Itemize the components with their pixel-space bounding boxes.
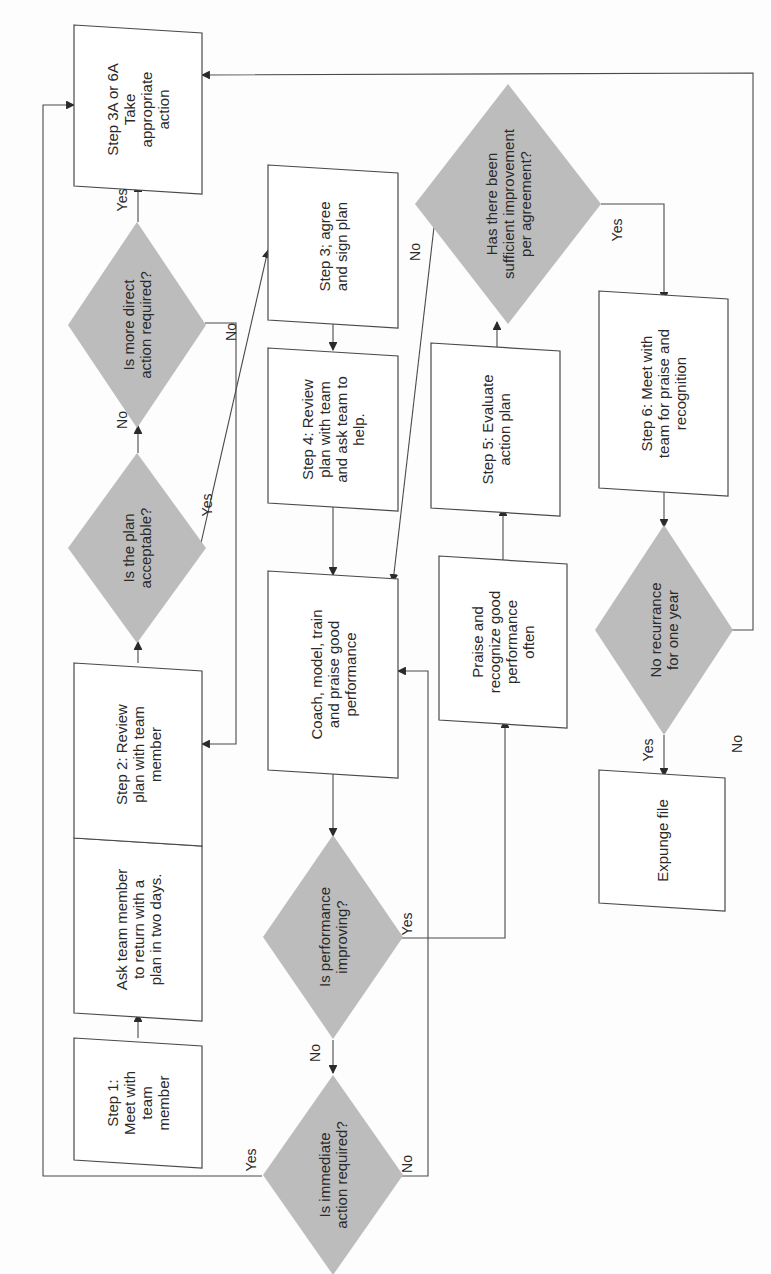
- node-text-line: Step 4: Review: [299, 379, 316, 480]
- node-step4: Step 4: Reviewplan with teamand ask team…: [268, 348, 398, 511]
- node-text-line: Expunge file: [654, 799, 671, 882]
- node-text-line: action required?: [137, 271, 154, 379]
- node-text-line: often: [520, 625, 537, 658]
- edge-label-yes: Yes: [609, 219, 625, 242]
- edge-label-no: No: [223, 323, 239, 341]
- node-expunge: Expunge file: [599, 770, 725, 911]
- node-text-line: Is the plan: [120, 513, 137, 582]
- node-text-line: plan in two days.: [147, 874, 164, 986]
- flowchart-diagram: Step 1:Meet withteammemberAsk team membe…: [0, 0, 771, 1274]
- node-text-line: plan with team: [316, 381, 333, 478]
- node-step5: Step 5: Evaluateaction plan: [431, 343, 560, 516]
- node-text-line: recognition: [672, 357, 689, 430]
- node-text-line: team for praise and: [655, 329, 672, 458]
- node-text-line: recognize good: [486, 591, 503, 694]
- ask-label: Ask team memberto return with aplan in t…: [113, 869, 164, 991]
- node-text-line: Step 5: Evaluate: [479, 374, 496, 484]
- node-text-line: Meet with: [121, 1071, 138, 1135]
- edge-label-yes: Yes: [399, 913, 415, 936]
- node-text-line: Ask team member: [113, 869, 130, 991]
- node-step1: Step 1:Meet withteammember: [74, 1038, 202, 1168]
- node-step2: Step 2: Reviewplan with teammember: [74, 663, 202, 846]
- node-text-line: action required?: [333, 1121, 350, 1229]
- node-text-line: to return with a: [130, 879, 147, 979]
- node-perf-improving: Is performanceimproving?: [263, 835, 403, 1039]
- edge-label-no: No: [399, 1155, 415, 1173]
- node-text-line: sufficient improvement: [500, 128, 517, 279]
- node-text-line: performance: [342, 632, 359, 716]
- node-immediate: Is immediateaction required?: [263, 1075, 403, 1274]
- node-text-line: plan with team: [130, 706, 147, 803]
- node-more-direct: Is more directaction required?: [68, 222, 206, 428]
- node-step3: Step 3; agreeand sign plan: [268, 165, 398, 328]
- node-text-line: Step 1:: [104, 1079, 121, 1127]
- node-text-line: Take: [121, 94, 138, 126]
- node-text-line: team: [138, 1086, 155, 1119]
- node-coach: Coach, model, trainand praise goodperfor…: [268, 571, 398, 778]
- node-text-line: No recurrance: [647, 582, 664, 677]
- edge-label-yes: Yes: [640, 739, 656, 762]
- no_recur-label: No recurrancefor one year: [647, 582, 681, 677]
- node-text-line: and ask team to: [333, 376, 350, 483]
- node-text-line: Step 2: Review: [113, 704, 130, 805]
- node-text-line: Praise and: [469, 606, 486, 678]
- node-text-line: action plan: [496, 393, 513, 466]
- node-ask: Ask team memberto return with aplan in t…: [74, 838, 202, 1021]
- node-text-line: Is performance: [316, 887, 333, 987]
- node-text-line: help.: [350, 413, 367, 446]
- immediate-label: Is immediateaction required?: [316, 1121, 350, 1229]
- arrow-sufficient-to-step6: [601, 204, 664, 300]
- node-step6: Step 6: Meet withteam for praise andreco…: [599, 291, 728, 496]
- nodes: Step 1:Meet withteammemberAsk team membe…: [68, 25, 733, 1274]
- flowchart-canvas: Step 1:Meet withteammemberAsk team membe…: [0, 0, 771, 1274]
- step3-label: Step 3; agreeand sign plan: [316, 201, 350, 291]
- node-text-line: improving?: [333, 900, 350, 973]
- edge-label-no: No: [729, 735, 745, 753]
- perf_improving-label: Is performanceimproving?: [316, 887, 350, 987]
- arrow-more-direct-to-step2: [202, 323, 236, 744]
- node-plan-ok: Is the planacceptable?: [68, 453, 206, 643]
- node-text-line: for one year: [664, 590, 681, 670]
- node-text-line: Is more direct: [120, 279, 137, 371]
- node-text-line: Has there been: [483, 153, 500, 256]
- edge-label-yes: Yes: [243, 1149, 259, 1172]
- node-text-line: appropriate: [138, 72, 155, 148]
- node-text-line: and sign plan: [333, 202, 350, 291]
- node-text-line: action: [155, 89, 172, 129]
- node-text-line: member: [147, 727, 164, 782]
- node-text-line: member: [155, 1075, 172, 1130]
- node-text-line: Step 6: Meet with: [638, 336, 655, 452]
- edge-label-no: No: [114, 411, 130, 429]
- node-text-line: Coach, model, train: [308, 609, 325, 739]
- more_direct-label: Is more directaction required?: [120, 271, 154, 379]
- arrow-sufficient-to-coach: [393, 227, 434, 582]
- node-text-line: and praise good: [325, 621, 342, 729]
- edge-label-yes: Yes: [199, 494, 215, 517]
- node-step3a: Step 3A or 6ATakeappropriateaction: [74, 25, 202, 194]
- node-text-line: performance: [503, 600, 520, 684]
- node-praise: Praise andrecognize goodperformanceoften: [439, 556, 567, 728]
- expunge-label: Expunge file: [654, 799, 671, 882]
- node-text-line: Step 3A or 6A: [104, 63, 121, 156]
- edge-label-yes: Yes: [114, 189, 130, 212]
- edge-label-no: No: [407, 243, 423, 261]
- node-text-line: Step 3; agree: [316, 201, 333, 291]
- arrow-perf-to-praise: [400, 720, 505, 938]
- node-text-line: acceptable?: [137, 508, 154, 589]
- node-sufficient: Has there beensufficient improvementper …: [415, 84, 601, 324]
- node-text-line: Is immediate: [316, 1132, 333, 1217]
- node-text-line: per agreement?: [517, 151, 534, 257]
- plan_ok-label: Is the planacceptable?: [120, 508, 154, 589]
- edge-label-no: No: [307, 1044, 323, 1062]
- node-no-recur: No recurrancefor one year: [595, 525, 733, 735]
